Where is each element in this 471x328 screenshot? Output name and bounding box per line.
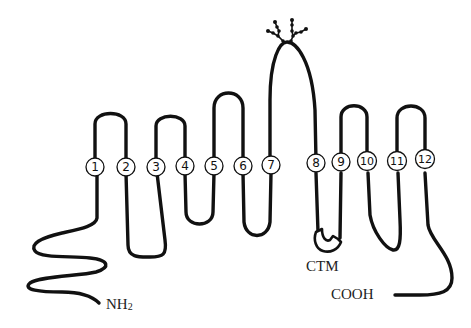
tm-segment-4: 4 <box>176 157 194 175</box>
tm-segment-2: 2 <box>117 158 135 176</box>
tm-label: 10 <box>360 155 374 168</box>
tm-label: 12 <box>418 153 432 166</box>
loop-2-3 <box>126 173 165 257</box>
tm-segment-10: 10 <box>358 152 377 171</box>
tm-segment-11: 11 <box>388 152 407 171</box>
tm-segment-7: 7 <box>262 156 280 174</box>
loop-3-4 <box>156 116 185 161</box>
loop-4-5 <box>185 173 214 224</box>
loop-5-6 <box>214 93 243 161</box>
tm-segment-12: 12 <box>416 150 435 169</box>
ctm-label: CTM <box>306 258 339 274</box>
loop-1-2 <box>95 114 126 162</box>
loop-7-8 <box>270 42 316 161</box>
tm-label: 8 <box>312 156 320 170</box>
tm-label: 5 <box>210 159 218 173</box>
loop-8-9-right <box>340 173 341 238</box>
c-terminus-label: COOH <box>331 286 374 302</box>
tm-segment-9: 9 <box>332 153 350 171</box>
tm-segment-1: 1 <box>86 158 104 176</box>
tm-label: 7 <box>267 158 275 172</box>
tm-label: 6 <box>239 159 247 173</box>
c-terminal-tail <box>395 173 452 295</box>
loop-10-11 <box>368 173 400 250</box>
loop-6-7 <box>243 173 271 236</box>
tm-label: 2 <box>122 160 130 174</box>
membrane-topology-diagram: 1 2 3 4 5 6 7 8 9 10 11 12 <box>0 0 471 328</box>
tm-segment-5: 5 <box>205 157 223 175</box>
tm-label: 4 <box>181 159 189 173</box>
n-terminus-label: NH2 <box>106 296 133 312</box>
tm-label: 11 <box>390 155 404 168</box>
tm-label: 3 <box>152 160 160 174</box>
n-terminal-tail <box>28 173 106 303</box>
loop-8-9 <box>316 173 318 232</box>
tm-label: 1 <box>91 160 99 174</box>
tm-segment-3: 3 <box>147 158 165 176</box>
tm-label: 9 <box>337 155 345 169</box>
glycosylation-icon <box>266 18 308 43</box>
tm-segment-6: 6 <box>234 157 252 175</box>
ctm-motif-shape <box>315 229 341 252</box>
tm-segment-8: 8 <box>307 154 325 172</box>
